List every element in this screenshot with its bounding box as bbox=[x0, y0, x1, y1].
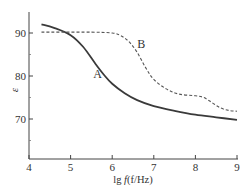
x-tick-label: 4 bbox=[26, 161, 32, 173]
y-ticks: 708090 bbox=[15, 27, 33, 141]
dielectric-constant-chart: 456789 708090 AB ε lg f(f/Hz) bbox=[0, 0, 247, 193]
x-axis-label: lg f(f/Hz) bbox=[113, 174, 153, 186]
series-label-a: A bbox=[93, 67, 102, 81]
y-tick-label: 70 bbox=[15, 113, 27, 125]
series-label-b: B bbox=[137, 37, 145, 51]
x-tick-label: 8 bbox=[193, 161, 199, 173]
x-axis-label-unit: (f/Hz) bbox=[127, 174, 153, 186]
axes bbox=[29, 12, 238, 159]
y-tick-label: 80 bbox=[15, 70, 27, 82]
x-tick-label: 7 bbox=[151, 161, 157, 173]
x-tick-label: 9 bbox=[234, 161, 240, 173]
y-tick-label: 90 bbox=[15, 27, 27, 39]
y-axis-label: ε bbox=[8, 87, 20, 92]
series-labels: AB bbox=[93, 37, 145, 81]
x-axis-label-prefix: lg bbox=[113, 174, 124, 185]
x-tick-label: 5 bbox=[68, 161, 74, 173]
x-ticks: 456789 bbox=[26, 155, 240, 173]
x-tick-label: 6 bbox=[109, 161, 115, 173]
